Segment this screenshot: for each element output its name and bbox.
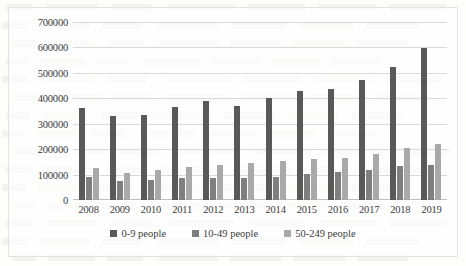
- x-axis-tick-label: 2008: [73, 204, 104, 215]
- bar[interactable]: [428, 165, 434, 200]
- bar[interactable]: [155, 170, 161, 200]
- legend-swatch-icon: [192, 230, 199, 237]
- y-axis-tick-label: 100000: [38, 169, 68, 180]
- bar[interactable]: [390, 67, 396, 200]
- x-axis-tick-label: 2017: [354, 204, 385, 215]
- bar-group: [73, 22, 104, 200]
- bar[interactable]: [86, 177, 92, 200]
- bar-groups: [73, 22, 447, 200]
- legend-label: 50-249 people: [295, 228, 355, 239]
- x-axis-tick-label: 2013: [229, 204, 260, 215]
- bar-group: [167, 22, 198, 200]
- bar[interactable]: [311, 159, 317, 200]
- y-axis-tick-label: 300000: [38, 118, 68, 129]
- x-axis-tick-label: 2010: [135, 204, 166, 215]
- legend-swatch-icon: [110, 230, 117, 237]
- x-axis-tick-label: 2019: [416, 204, 447, 215]
- legend-item[interactable]: 50-249 people: [284, 228, 355, 239]
- bar-group: [135, 22, 166, 200]
- x-axis-tick-label: 2014: [260, 204, 291, 215]
- bar[interactable]: [335, 172, 341, 200]
- bar-group: [354, 22, 385, 200]
- bar[interactable]: [328, 89, 334, 200]
- bar[interactable]: [266, 98, 272, 200]
- x-axis-tick-label: 2011: [167, 204, 198, 215]
- chart-legend: 0-9 people10-49 people50-249 people: [9, 228, 457, 239]
- bar[interactable]: [117, 181, 123, 200]
- legend-swatch-icon: [284, 230, 291, 237]
- bar[interactable]: [234, 106, 240, 200]
- bar[interactable]: [342, 158, 348, 200]
- y-axis-tick-label: 0: [63, 195, 68, 206]
- bar[interactable]: [373, 154, 379, 200]
- legend-label: 10-49 people: [203, 228, 258, 239]
- bar[interactable]: [79, 108, 85, 200]
- bar-group: [260, 22, 291, 200]
- bar[interactable]: [241, 178, 247, 200]
- legend-item[interactable]: 10-49 people: [192, 228, 258, 239]
- bar-group: [322, 22, 353, 200]
- x-axis-tick-label: 2018: [385, 204, 416, 215]
- bar[interactable]: [248, 163, 254, 200]
- bar[interactable]: [172, 107, 178, 200]
- bar[interactable]: [210, 178, 216, 200]
- y-axis-tick-label: 400000: [38, 93, 68, 104]
- bar-group: [416, 22, 447, 200]
- bar[interactable]: [186, 167, 192, 200]
- bar[interactable]: [110, 116, 116, 200]
- bar[interactable]: [179, 178, 185, 200]
- y-axis-tick-label: 500000: [38, 67, 68, 78]
- bar-group: [385, 22, 416, 200]
- bar[interactable]: [124, 173, 130, 200]
- legend-item[interactable]: 0-9 people: [110, 228, 166, 239]
- bar[interactable]: [148, 180, 154, 200]
- bar[interactable]: [397, 166, 403, 200]
- bar[interactable]: [280, 161, 286, 200]
- chart-page: 0100000200000300000400000500000600000700…: [0, 0, 466, 266]
- plot-area: 0100000200000300000400000500000600000700…: [73, 22, 447, 200]
- bar[interactable]: [404, 148, 410, 200]
- bar[interactable]: [297, 91, 303, 200]
- bar[interactable]: [366, 170, 372, 201]
- x-axis-tick-label: 2009: [104, 204, 135, 215]
- chart-frame: 0100000200000300000400000500000600000700…: [8, 7, 458, 257]
- bar-group: [291, 22, 322, 200]
- bar[interactable]: [141, 115, 147, 200]
- bar[interactable]: [203, 101, 209, 200]
- x-axis-tick-label: 2016: [322, 204, 353, 215]
- bar[interactable]: [421, 48, 427, 200]
- bar[interactable]: [217, 165, 223, 200]
- x-axis-tick-labels: 2008200920102011201220132014201520162017…: [73, 204, 447, 215]
- bar[interactable]: [273, 177, 279, 200]
- bar[interactable]: [304, 174, 310, 200]
- bar-group: [198, 22, 229, 200]
- y-axis-tick-label: 700000: [38, 17, 68, 28]
- bar[interactable]: [435, 144, 441, 200]
- bar[interactable]: [93, 168, 99, 200]
- bar-group: [104, 22, 135, 200]
- y-axis-tick-label: 200000: [38, 144, 68, 155]
- y-axis-tick-label: 600000: [38, 42, 68, 53]
- legend-label: 0-9 people: [121, 228, 166, 239]
- x-axis-tick-label: 2015: [291, 204, 322, 215]
- bar-group: [229, 22, 260, 200]
- x-axis-tick-label: 2012: [198, 204, 229, 215]
- bar[interactable]: [359, 80, 365, 200]
